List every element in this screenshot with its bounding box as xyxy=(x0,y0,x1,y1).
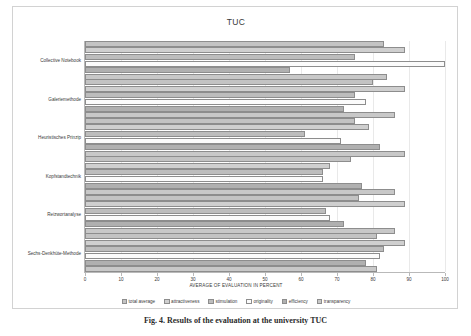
bar xyxy=(85,233,377,239)
plot-area: Collective NotebookGaleriemethodeHeurist… xyxy=(84,41,445,273)
x-tick-label: 70 xyxy=(334,277,339,282)
bar xyxy=(85,79,373,85)
x-tick-label: 30 xyxy=(190,277,195,282)
x-tick xyxy=(193,273,194,276)
bar-row xyxy=(85,99,445,105)
bar xyxy=(85,195,359,201)
x-tick-label: 50 xyxy=(262,277,267,282)
bar xyxy=(85,118,355,124)
x-tick xyxy=(409,273,410,276)
bar-row xyxy=(85,54,445,60)
y-axis-label: Galeriemethode xyxy=(48,96,81,101)
bar-group: Reizwortanalyse xyxy=(85,195,445,234)
legend-swatch xyxy=(317,299,322,304)
x-tick-label: 20 xyxy=(154,277,159,282)
x-tick-label: 80 xyxy=(370,277,375,282)
bar-row xyxy=(85,201,445,207)
legend-swatch xyxy=(164,299,169,304)
x-tick xyxy=(373,273,374,276)
x-tick xyxy=(121,273,122,276)
legend-label: transparency xyxy=(324,299,351,304)
bar-row xyxy=(85,215,445,221)
bar-row xyxy=(85,61,445,67)
legend-label: total average xyxy=(129,299,156,304)
x-tick xyxy=(85,273,86,276)
y-axis-label: Sechs-Denkhüte-Methode xyxy=(28,250,81,255)
bar-row xyxy=(85,208,445,214)
x-tick-label: 40 xyxy=(226,277,231,282)
bar xyxy=(85,41,384,47)
legend-swatch xyxy=(208,299,213,304)
bar-row xyxy=(85,163,445,169)
bar xyxy=(85,156,351,162)
legend-label: efficiency xyxy=(289,299,308,304)
bar xyxy=(85,99,366,105)
figure-caption: Fig. 4. Results of the evaluation at the… xyxy=(0,316,471,325)
bar-row xyxy=(85,253,445,259)
x-tick-label: 100 xyxy=(441,277,449,282)
bar xyxy=(85,144,380,150)
bar-row xyxy=(85,118,445,124)
bar-row xyxy=(85,240,445,246)
bar-group: Kopfstandtechnik xyxy=(85,156,445,195)
bar-row xyxy=(85,183,445,189)
bar xyxy=(85,169,323,175)
legend-item[interactable]: originality xyxy=(246,299,272,304)
bar xyxy=(85,176,323,182)
bar-row xyxy=(85,92,445,98)
bar xyxy=(85,208,326,214)
bar-row xyxy=(85,195,445,201)
bar xyxy=(85,253,380,259)
bar-row xyxy=(85,138,445,144)
y-axis-label: Kopfstandtechnik xyxy=(46,173,81,178)
bar xyxy=(85,266,377,272)
chart-canvas: TUC Collective NotebookGaleriemethodeHeu… xyxy=(12,6,458,309)
legend-item[interactable]: transparency xyxy=(317,299,351,304)
bar xyxy=(85,86,405,92)
x-tick-label: 60 xyxy=(298,277,303,282)
bar xyxy=(85,260,366,266)
y-axis-label: Collective Notebook xyxy=(40,58,81,63)
x-tick-label: 0 xyxy=(84,277,87,282)
bar-row xyxy=(85,176,445,182)
bar-row xyxy=(85,260,445,266)
bar-row xyxy=(85,106,445,112)
legend-item[interactable]: stimulation xyxy=(208,299,237,304)
x-axis-title: AVERAGE OF EVALUATION IN PERCENT xyxy=(13,283,459,288)
gridline xyxy=(445,41,446,272)
bar xyxy=(85,92,355,98)
bar xyxy=(85,183,362,189)
bar-group: Galeriemethode xyxy=(85,79,445,118)
x-tick-label: 10 xyxy=(118,277,123,282)
legend-swatch xyxy=(122,299,127,304)
bar-group: Sechs-Denkhüte-Methode xyxy=(85,233,445,272)
legend-swatch xyxy=(246,299,251,304)
bar xyxy=(85,47,405,53)
legend-item[interactable]: total average xyxy=(122,299,156,304)
bar-row xyxy=(85,266,445,272)
x-tick xyxy=(445,273,446,276)
bar xyxy=(85,201,405,207)
bar-row xyxy=(85,79,445,85)
x-tick xyxy=(265,273,266,276)
bar-row xyxy=(85,169,445,175)
legend-item[interactable]: attractiveness xyxy=(164,299,199,304)
bar-group: Collective Notebook xyxy=(85,41,445,80)
y-axis-label: Heuristisches Prinzip xyxy=(38,135,81,140)
legend-swatch xyxy=(282,299,287,304)
bar-row xyxy=(85,41,445,47)
bar xyxy=(85,215,330,221)
bar-group: Heuristisches Prinzip xyxy=(85,118,445,157)
bar xyxy=(85,240,405,246)
legend-label: originality xyxy=(253,299,272,304)
x-tick xyxy=(337,273,338,276)
x-tick xyxy=(229,273,230,276)
bar xyxy=(85,163,330,169)
bar xyxy=(85,106,344,112)
legend-item[interactable]: efficiency xyxy=(282,299,308,304)
bar xyxy=(85,131,305,137)
figure: TUC Collective NotebookGaleriemethodeHeu… xyxy=(0,0,471,336)
bar xyxy=(85,61,445,67)
bar-row xyxy=(85,156,445,162)
bar-row xyxy=(85,67,445,73)
